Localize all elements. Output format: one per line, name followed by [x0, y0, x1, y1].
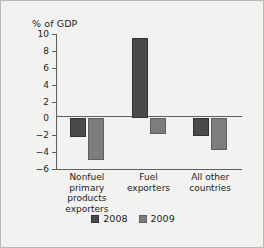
bar-2009-2 — [150, 118, 166, 133]
x-axis-line — [56, 169, 242, 170]
chart-figure: % of GDP 1086420−2−4−6 Nonfuel primarypr… — [0, 0, 264, 248]
chart-legend: 20082009 — [1, 213, 264, 224]
y-tick-label: −2 — [36, 130, 49, 140]
bar-2009-3 — [211, 118, 227, 150]
legend-swatch-icon — [139, 215, 147, 223]
y-tick-label: 8 — [43, 46, 49, 56]
y-tick-label: 6 — [43, 63, 49, 73]
category-label-3: All othercountries — [179, 172, 241, 193]
category-label-line: exporters — [118, 183, 180, 194]
y-axis-tick-labels: 1086420−2−4−6 — [15, 1, 49, 248]
y-tick-label: 4 — [43, 80, 49, 90]
legend-label: 2008 — [103, 213, 127, 224]
bar-2008-3 — [193, 118, 209, 136]
legend-swatch-icon — [91, 215, 99, 223]
legend-entry-2009: 2009 — [139, 213, 175, 224]
category-label-line: products — [56, 193, 118, 204]
y-tick-label: 10 — [38, 29, 49, 39]
category-label-line: countries — [179, 183, 241, 194]
category-label-line: All other — [179, 172, 241, 183]
category-label-2: Fuelexporters — [118, 172, 180, 193]
legend-label: 2009 — [151, 213, 175, 224]
bar-2009-1 — [88, 118, 104, 159]
y-tick-label: 2 — [43, 97, 49, 107]
y-tick-label: 0 — [43, 113, 49, 123]
y-tick-label: −6 — [36, 164, 49, 174]
bar-2008-2 — [132, 38, 148, 118]
plot-area — [56, 34, 241, 169]
category-label-1: Nonfuel primaryproductsexporters — [56, 172, 118, 214]
bar-2008-1 — [70, 118, 86, 137]
category-label-line: Fuel — [118, 172, 180, 183]
y-tick-label: −4 — [36, 147, 49, 157]
category-label-line: Nonfuel primary — [56, 172, 118, 193]
legend-entry-2008: 2008 — [91, 213, 127, 224]
